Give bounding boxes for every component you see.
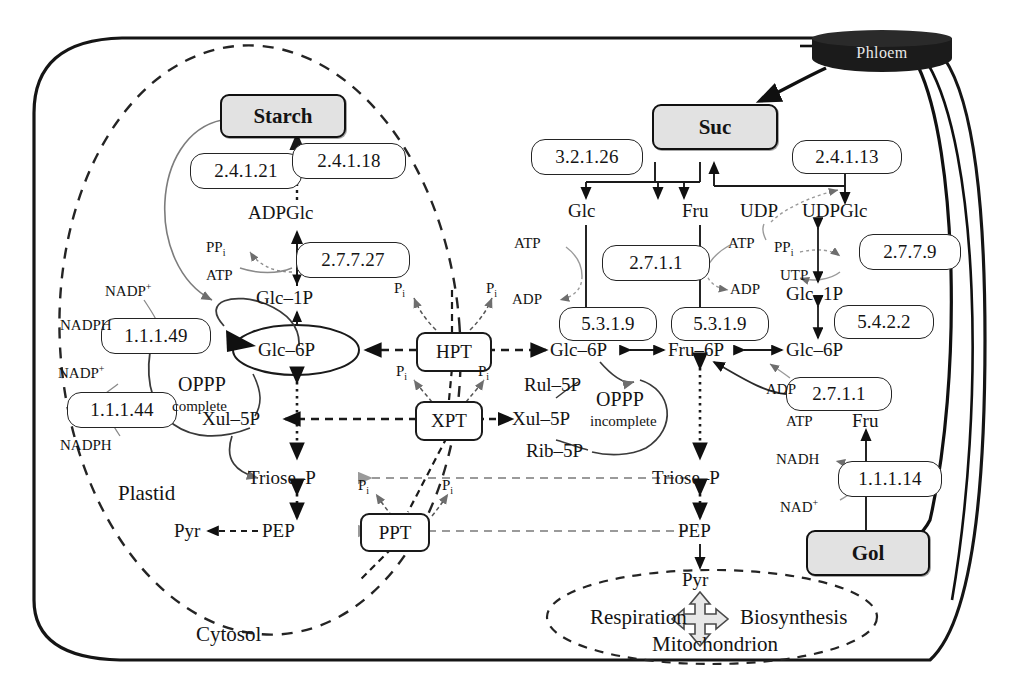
metabolite-glc6p-plastid: Glc–6P: [258, 340, 315, 359]
phloem-node: Phloem: [812, 30, 952, 80]
enzyme-2-4-1-13[interactable]: 2.4.1.13: [792, 140, 902, 174]
metabolite-glc6p-cyt-right: Glc–6P: [786, 340, 843, 359]
annotation-oppp-incomplete-line2: incomplete: [590, 414, 657, 429]
cofactor-pi-ppt-left: Pi: [358, 478, 369, 496]
arc-adp-glc-out: [560, 276, 582, 300]
cofactor-ppi-udp: PPi: [774, 240, 793, 258]
annotation-oppp-complete-line2: complete: [172, 399, 227, 414]
cofactor-nadh: NADH: [776, 452, 819, 467]
pool-starch: Starch: [220, 94, 346, 138]
cofactor-pi-hpt-right: Pi: [486, 281, 497, 299]
arrow-glc6p-to-oppp-incomplete: [600, 362, 634, 382]
cofactor-pi-xpt-left: Pi: [396, 364, 407, 382]
cofactor-pi-ppt-right: Pi: [442, 478, 453, 496]
cofactor-utp: UTP: [780, 268, 808, 283]
arrow-hpt-pi-left: [414, 298, 436, 330]
arrow-xpt-pi-left: [414, 380, 432, 402]
cofactor-pi-hpt-left: Pi: [394, 281, 405, 299]
metabolite-pep-plastid: PEP: [262, 521, 295, 540]
arc-ppi-2779: [800, 250, 840, 256]
enzyme-2-4-1-18[interactable]: 2.4.1.18: [292, 143, 406, 179]
cofactor-atp-gol: ATP: [786, 414, 813, 429]
transporter-ppt[interactable]: PPT: [360, 513, 430, 552]
enzyme-2-7-1-1-glc[interactable]: 2.7.1.1: [602, 245, 710, 281]
enzyme-1-1-1-14[interactable]: 1.1.1.14: [838, 461, 942, 497]
enzyme-2-7-7-9[interactable]: 2.7.7.9: [859, 234, 961, 270]
metabolite-adpglc: ADPGlc: [248, 203, 313, 222]
arc-adp-gol-out: [770, 364, 790, 378]
cofactor-atp-fru: ATP: [728, 236, 755, 251]
cofactor-nadph-2: NADPH: [60, 438, 112, 453]
label-mitochondrion: Mitochondrion: [652, 634, 778, 655]
metabolite-glc6p-cyt-left: Glc–6P: [550, 340, 607, 359]
phloem-label: Phloem: [812, 44, 952, 62]
enzyme-1-1-1-49[interactable]: 1.1.1.49: [101, 318, 211, 354]
enzyme-2-7-1-1-fru[interactable]: 2.7.1.1: [786, 377, 892, 411]
label-plastid: Plastid: [118, 483, 175, 504]
annotation-oppp-complete-line1: OPPP: [178, 374, 226, 394]
metabolite-fru-gol: Fru: [852, 411, 878, 430]
arc-atp-glc-in: [566, 247, 582, 276]
line-xpt-hpt-link: [449, 368, 452, 400]
enzyme-2-7-7-27[interactable]: 2.7.7.27: [296, 242, 410, 278]
metabolite-udpglc: UDPGlc: [802, 201, 867, 220]
metabolite-glc: Glc: [568, 201, 595, 220]
pool-gol: Gol: [806, 530, 930, 576]
cofactor-adp-glc: ADP: [512, 292, 542, 307]
metabolite-pyr-cyt: Pyr: [682, 570, 708, 589]
metabolite-rul5p: Rul–5P: [524, 375, 581, 394]
metabolite-triosep-cyt: Triose–P: [652, 468, 720, 487]
enzyme-5-4-2-2[interactable]: 5.4.2.2: [834, 305, 934, 339]
cofactor-nadp-plus-1: NADP+: [105, 282, 151, 299]
annotation-oppp-incomplete-line1: OPPP: [596, 389, 644, 409]
metabolite-fru6p: Fru–6P: [668, 340, 724, 359]
metabolite-xul5p-cyt: Xul–5P: [512, 409, 570, 428]
pathway-diagram: Phloem Starch Suc Gol 2.4.1.21 2.4.1.18 …: [0, 0, 1024, 699]
cofactor-pi-xpt-right: Pi: [478, 364, 489, 382]
transporter-xpt[interactable]: XPT: [415, 401, 483, 441]
arc-atp-to-ppi: [250, 252, 292, 272]
metabolite-pyr-plastid: Pyr: [174, 521, 200, 540]
label-biosynthesis: Biosynthesis: [740, 607, 847, 628]
enzyme-1-1-1-44[interactable]: 1.1.1.44: [67, 392, 177, 428]
cofactor-nad-plus: NAD+: [780, 498, 818, 515]
cofactor-adp-gol: ADP: [766, 382, 796, 397]
metabolite-pep-cyt: PEP: [678, 521, 711, 540]
line-xpt-to-ppt: [408, 437, 447, 512]
metabolite-glc1p-plastid: Glc–1P: [256, 288, 313, 307]
cofactor-ppi-starch: PPi: [206, 240, 225, 258]
arrow-ppt-pi-right: [432, 494, 448, 516]
enzyme-2-4-1-21[interactable]: 2.4.1.21: [190, 153, 302, 189]
metabolite-fru-top: Fru: [682, 201, 708, 220]
arrow-xpt-pi-right: [466, 380, 484, 402]
enzyme-5-3-1-9-b[interactable]: 5.3.1.9: [671, 307, 769, 341]
metabolite-udp: UDP: [740, 201, 778, 220]
label-cytosol: Cytosol: [196, 624, 261, 645]
cofactor-nadp-plus-2: NADP+: [58, 364, 104, 381]
arc-adp-fru-out: [706, 272, 728, 290]
cofactor-atp-starch: ATP: [206, 268, 233, 283]
line-ppt-down: [360, 548, 392, 580]
metabolite-rib5p: Rib–5P: [526, 441, 583, 460]
arrow-hpt-pi-right: [470, 298, 492, 330]
cofactor-nadph-1: NADPH: [60, 318, 112, 333]
cofactor-atp-glc: ATP: [514, 236, 541, 251]
enzyme-5-3-1-9-a[interactable]: 5.3.1.9: [559, 307, 657, 341]
tick-udp: [763, 224, 766, 240]
metabolite-triosep-plastid: Triose–P: [248, 468, 316, 487]
enzyme-3-2-1-26[interactable]: 3.2.1.26: [531, 139, 643, 175]
label-respiration: Respiration: [590, 607, 687, 628]
pool-suc: Suc: [652, 104, 778, 150]
cofactor-adp-fru: ADP: [730, 282, 760, 297]
metabolite-glc1p-cyt: Glc–1P: [786, 284, 843, 303]
